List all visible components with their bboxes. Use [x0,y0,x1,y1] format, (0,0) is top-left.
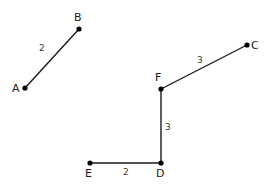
diagram-canvas [0,0,267,186]
vertex-dot-b [76,26,81,31]
vertex-dot-c [244,42,249,47]
segment-fc [161,45,247,89]
vertex-label-c: C [251,40,259,51]
vertex-dot-d [158,160,163,165]
vertex-dot-f [158,86,163,91]
vertex-dot-e [87,160,92,165]
edge-length-label-fd: 3 [165,123,171,132]
vertex-dot-group [22,26,249,165]
segment-ab [25,29,79,88]
segment-group [25,29,247,163]
vertex-label-e: E [85,168,92,179]
vertex-dot-a [22,85,27,90]
edge-length-label-fc: 3 [197,56,203,65]
vertex-label-d: D [156,168,164,179]
vertex-label-b: B [74,12,82,23]
vertex-label-a: A [12,83,20,94]
edge-length-label-ed: 2 [123,168,129,177]
geometry-diagram-page: { "diagram": { "title": "Line segments w… [0,0,267,186]
vertex-label-f: F [155,72,161,83]
edge-length-label-ab: 2 [39,44,45,53]
